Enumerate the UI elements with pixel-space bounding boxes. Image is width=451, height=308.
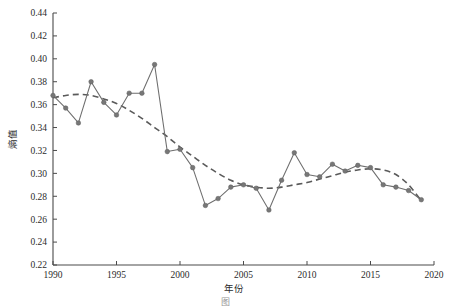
data-point-marker	[394, 185, 399, 190]
data-point-marker	[216, 196, 221, 201]
data-point-marker	[279, 178, 284, 183]
data-point-marker	[254, 186, 259, 191]
figure-caption: 图	[0, 297, 451, 308]
data-point-marker	[51, 93, 56, 98]
y-tick-label: 0.34	[30, 123, 47, 133]
data-point-marker	[89, 79, 94, 84]
data-point-marker	[267, 208, 272, 213]
y-axis-label: 熵值	[7, 129, 18, 149]
data-point-marker	[330, 162, 335, 167]
y-tick-label: 0.36	[30, 100, 47, 110]
data-point-marker	[152, 62, 157, 67]
chart-figure: 0.220.240.260.280.300.320.340.360.380.40…	[0, 0, 451, 308]
data-point-marker	[102, 100, 107, 105]
data-point-marker	[165, 149, 170, 154]
x-tick-label: 2000	[171, 270, 190, 280]
data-point-marker	[178, 147, 183, 152]
y-tick-label: 0.26	[30, 215, 47, 225]
x-axis-label: 年份	[224, 283, 244, 294]
trend-line-path	[53, 94, 421, 201]
data-point-marker	[76, 121, 81, 126]
data-point-marker	[406, 188, 411, 193]
data-point-marker	[368, 165, 373, 170]
data-point-marker	[140, 91, 145, 96]
x-tick-label: 1990	[44, 270, 63, 280]
data-point-marker	[305, 172, 310, 177]
data-point-marker	[241, 183, 246, 188]
series-markers	[51, 62, 424, 212]
data-point-marker	[190, 165, 195, 170]
data-point-marker	[203, 203, 208, 208]
y-tick-label: 0.28	[30, 192, 47, 202]
data-point-marker	[292, 150, 297, 155]
data-point-marker	[63, 106, 68, 111]
line-chart: 0.220.240.260.280.300.320.340.360.380.40…	[0, 0, 451, 308]
y-tick-label: 0.42	[30, 31, 47, 41]
data-point-marker	[229, 185, 234, 190]
y-tick-label: 0.30	[30, 169, 47, 179]
y-tick-label: 0.44	[30, 8, 47, 18]
data-point-marker	[114, 113, 119, 118]
y-tick-label: 0.24	[30, 237, 47, 247]
x-tick-label: 2010	[298, 270, 317, 280]
data-point-marker	[419, 197, 424, 202]
series-line-path	[53, 65, 421, 210]
data-point-marker	[381, 183, 386, 188]
data-point-marker	[343, 169, 348, 174]
y-tick-label: 0.38	[30, 77, 47, 87]
data-point-marker	[127, 91, 132, 96]
data-point-marker	[356, 163, 361, 168]
x-tick-label: 2005	[234, 270, 253, 280]
x-tick-label: 1995	[107, 270, 126, 280]
y-tick-label: 0.22	[30, 260, 47, 270]
y-tick-label: 0.32	[30, 146, 47, 156]
x-tick-label: 2020	[425, 270, 444, 280]
x-tick-label: 2015	[361, 270, 380, 280]
x-axis-ticks: 1990199520002005201020152020	[44, 261, 444, 280]
data-point-marker	[317, 175, 322, 180]
y-tick-label: 0.40	[30, 54, 47, 64]
